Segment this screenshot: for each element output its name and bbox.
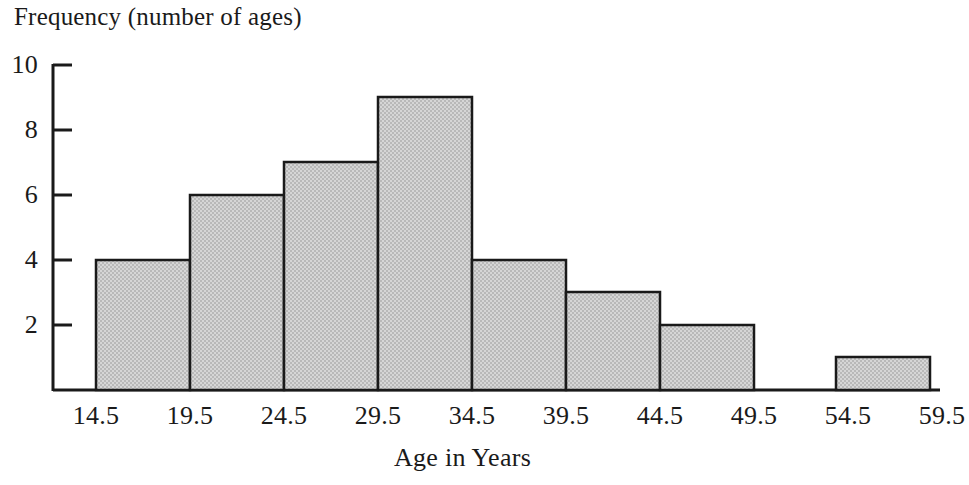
x-axis-title-text: Age in Years — [394, 443, 531, 472]
bar-19.5-24.5 — [190, 195, 284, 390]
x-axis-title: Age in Years — [0, 443, 961, 473]
bars-group — [96, 97, 930, 390]
bar-24.5-29.5 — [284, 162, 378, 390]
y-tick-label-8: 8 — [0, 117, 38, 143]
bar-14.5-19.5 — [96, 260, 190, 390]
bar-29.5-34.5 — [378, 97, 472, 390]
bar-34.5-39.5 — [472, 260, 566, 390]
y-tick-label-4: 4 — [0, 247, 38, 273]
bar-39.5-44.5 — [566, 292, 660, 390]
y-axis-ticks — [53, 65, 72, 325]
y-tick-label-6: 6 — [0, 182, 38, 208]
bar-54.5-59.5 — [836, 357, 930, 390]
x-tick-label-59.5: 59.5 — [887, 403, 969, 429]
y-tick-label-10: 10 — [0, 52, 38, 78]
bar-44.5-49.5 — [660, 325, 754, 390]
y-tick-label-2: 2 — [0, 312, 38, 338]
